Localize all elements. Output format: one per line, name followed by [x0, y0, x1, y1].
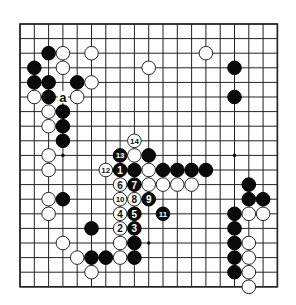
black-stone — [228, 207, 242, 221]
black-stone — [56, 119, 70, 133]
black-stone — [128, 236, 142, 250]
move-number: 11 — [159, 210, 168, 219]
black-stone — [99, 251, 113, 265]
white-stone — [242, 236, 256, 250]
black-stone — [85, 251, 99, 265]
move-number: 9 — [146, 194, 152, 205]
black-stone — [42, 90, 56, 104]
black-stone — [56, 134, 70, 148]
labels-layer: a — [58, 90, 68, 105]
black-stone — [56, 105, 70, 119]
move-number: 14 — [130, 137, 139, 146]
move-number: 10 — [116, 195, 125, 204]
move-9: 9 — [142, 192, 156, 206]
move-number: 13 — [116, 151, 125, 160]
white-stone — [185, 178, 199, 192]
black-stone — [256, 192, 270, 206]
black-stone — [28, 76, 42, 90]
move-4: 4 — [113, 207, 127, 221]
white-stone — [42, 149, 56, 163]
white-stone — [85, 265, 99, 279]
move-number: 2 — [117, 223, 123, 234]
black-stone — [56, 192, 70, 206]
white-stone — [128, 149, 142, 163]
black-stone — [199, 163, 213, 177]
black-stone — [242, 192, 256, 206]
white-stone — [242, 280, 256, 294]
white-stone — [242, 251, 256, 265]
black-stone — [42, 76, 56, 90]
white-stone — [242, 265, 256, 279]
move-number: 8 — [132, 194, 138, 205]
move-12: 12 — [99, 163, 113, 177]
star-point — [61, 154, 65, 158]
white-stone — [142, 178, 156, 192]
move-number: 1 — [117, 165, 123, 176]
black-stone — [156, 163, 170, 177]
move-14: 14 — [128, 134, 142, 148]
black-stone — [28, 61, 42, 75]
move-number: 7 — [132, 180, 138, 191]
move-2: 2 — [113, 222, 127, 236]
white-stone — [256, 207, 270, 221]
white-stone — [171, 178, 185, 192]
black-stone — [171, 163, 185, 177]
white-stone — [42, 119, 56, 133]
white-stone — [42, 163, 56, 177]
white-stone — [156, 178, 170, 192]
move-number: 4 — [117, 209, 123, 220]
white-stone — [70, 90, 84, 104]
move-8: 8 — [128, 192, 142, 206]
white-stone — [56, 236, 70, 250]
black-stone — [228, 222, 242, 236]
white-stone — [42, 105, 56, 119]
black-stone — [228, 265, 242, 279]
move-5: 5 — [128, 207, 142, 221]
white-stone — [56, 61, 70, 75]
black-stone — [228, 90, 242, 104]
white-stone — [85, 46, 99, 60]
white-stone — [142, 163, 156, 177]
black-stone — [128, 251, 142, 265]
move-number: 5 — [132, 209, 138, 220]
move-13: 13 — [113, 149, 127, 163]
black-stone — [142, 149, 156, 163]
black-stone — [128, 163, 142, 177]
star-point — [233, 154, 237, 158]
black-stone — [185, 163, 199, 177]
point-label: a — [59, 90, 67, 105]
move-number: 12 — [101, 166, 110, 175]
white-stone — [113, 251, 127, 265]
go-board: 1234567891011121314 a — [0, 0, 296, 305]
white-stone — [142, 61, 156, 75]
white-stone — [42, 207, 56, 221]
star-point — [147, 241, 151, 245]
white-stone — [85, 76, 99, 90]
move-3: 3 — [128, 222, 142, 236]
black-stone — [228, 61, 242, 75]
black-stone — [42, 46, 56, 60]
move-number: 3 — [132, 223, 138, 234]
white-stone — [113, 236, 127, 250]
white-stone — [70, 251, 84, 265]
white-stone — [56, 46, 70, 60]
move-number: 6 — [117, 180, 123, 191]
white-stone — [199, 46, 213, 60]
white-stone — [28, 90, 42, 104]
white-stone — [242, 207, 256, 221]
black-stone — [242, 178, 256, 192]
black-stone — [228, 236, 242, 250]
move-1: 1 — [113, 163, 127, 177]
move-11: 11 — [156, 207, 170, 221]
move-6: 6 — [113, 178, 127, 192]
black-stone — [70, 76, 84, 90]
move-10: 10 — [113, 192, 127, 206]
move-7: 7 — [128, 178, 142, 192]
black-stone — [85, 222, 99, 236]
black-stone — [228, 251, 242, 265]
white-stone — [42, 192, 56, 206]
